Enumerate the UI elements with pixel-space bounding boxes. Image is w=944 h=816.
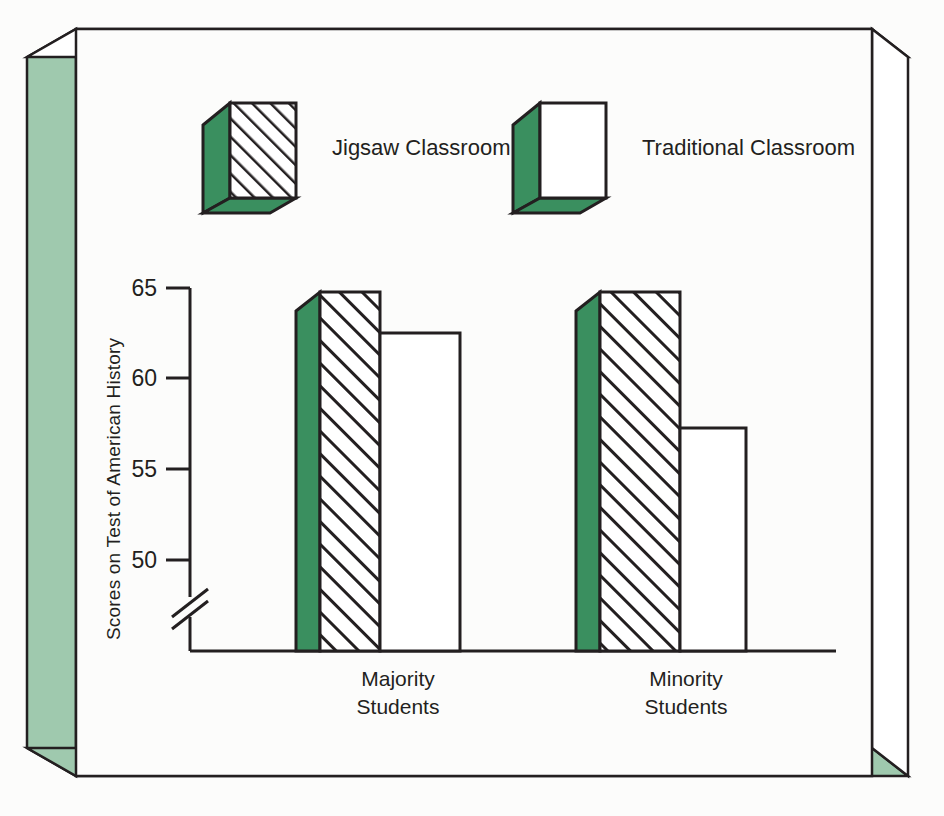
bar-minority-traditional[interactable] — [680, 428, 746, 651]
y-tick-label-65: 65 — [131, 275, 157, 301]
x-category-label-minority-line2: Students — [645, 695, 728, 718]
y-axis: 65 60 55 50 Scores on Test of American H… — [103, 275, 208, 651]
bar-chart: Jigsaw Classroom Traditional Classroom — [0, 0, 944, 816]
legend-label-jigsaw: Jigsaw Classroom — [332, 135, 511, 160]
legend-item-traditional[interactable]: Traditional Classroom — [513, 103, 855, 213]
y-tick-label-60: 60 — [131, 365, 157, 391]
x-category-label-majority-line2: Students — [357, 695, 440, 718]
hatched-cube-icon — [203, 103, 296, 213]
legend: Jigsaw Classroom Traditional Classroom — [203, 103, 855, 213]
bar-group-majority: Majority Students — [296, 292, 460, 718]
bar-minority-jigsaw[interactable] — [576, 292, 680, 651]
bar-majority-traditional[interactable] — [380, 333, 460, 651]
plain-cube-icon — [513, 103, 606, 213]
x-category-label-minority-line1: Minority — [649, 667, 723, 690]
x-category-label-majority-line1: Majority — [361, 667, 435, 690]
bar-group-minority: Minority Students — [576, 292, 746, 718]
y-tick-marks — [166, 288, 190, 560]
y-axis-title: Scores on Test of American History — [103, 338, 124, 640]
figure-canvas: Jigsaw Classroom Traditional Classroom — [0, 0, 944, 816]
bar-majority-jigsaw[interactable] — [296, 292, 380, 651]
y-tick-label-55: 55 — [131, 456, 157, 482]
y-tick-label-50: 50 — [131, 547, 157, 573]
legend-label-traditional: Traditional Classroom — [642, 135, 855, 160]
legend-item-jigsaw[interactable]: Jigsaw Classroom — [203, 103, 511, 213]
